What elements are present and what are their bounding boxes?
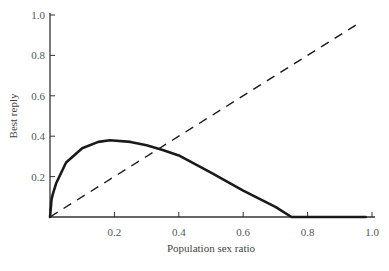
y-tick-label: 0.2 (31, 171, 45, 183)
y-axis-label: Best reply (7, 93, 19, 138)
chart: 0.20.40.60.81.0 0.20.40.60.81.0 Populati… (0, 0, 389, 271)
x-tick-label: 0.4 (172, 226, 186, 238)
y-ticks: 0.20.40.60.81.0 (31, 9, 55, 183)
y-tick-label: 0.8 (31, 49, 45, 61)
series-group (50, 23, 366, 217)
x-tick-label: 0.8 (301, 226, 315, 238)
y-tick-label: 1.0 (31, 9, 45, 21)
x-axis-label: Population sex ratio (167, 242, 255, 254)
x-tick-label: 1.0 (365, 226, 379, 238)
y-tick-label: 0.6 (31, 90, 45, 102)
x-tick-label: 0.2 (108, 226, 122, 238)
x-tick-label: 0.6 (236, 226, 250, 238)
best-reply-curve (50, 140, 366, 217)
diagonal-dashed-line (50, 23, 359, 217)
y-tick-label: 0.4 (31, 130, 45, 142)
